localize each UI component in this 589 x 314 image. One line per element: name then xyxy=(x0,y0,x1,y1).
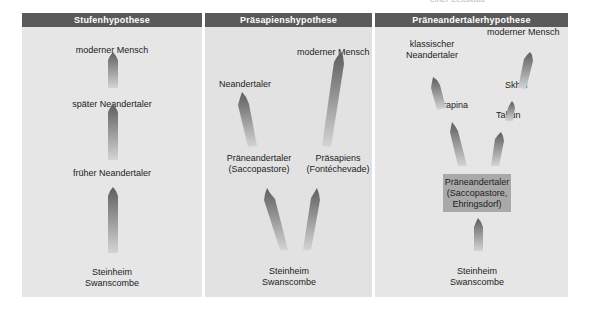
arrow-up-icon xyxy=(474,218,483,251)
arrow-modern-icon xyxy=(518,52,533,89)
arrow-tabun-icon xyxy=(491,132,504,166)
arrow-up-icon xyxy=(108,52,118,88)
arrow-modern-icon xyxy=(322,52,344,147)
arrow-classic-neanderthal-icon xyxy=(431,77,446,110)
arrow-krapina-icon xyxy=(450,122,467,166)
arrow-presapiens-icon xyxy=(303,188,320,250)
arrow-up-icon xyxy=(108,187,118,253)
arrow-up-icon xyxy=(108,104,118,160)
arrow-neanderthal-icon xyxy=(238,92,257,147)
arrow-skhul-icon xyxy=(505,101,515,121)
arrow-preneanderthal-icon xyxy=(264,188,288,250)
arrows xyxy=(0,0,589,314)
